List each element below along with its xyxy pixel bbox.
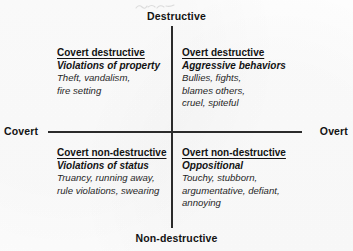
quadrant-covert-destructive: Covert destructive Violations of propert… <box>57 47 160 97</box>
quadrant-item: blames others, <box>182 85 286 97</box>
quadrant-item: Touchy, stubborn, <box>182 172 286 184</box>
quadrant-heading: Overt non-destructive <box>182 147 286 159</box>
quadrant-heading: Overt destructive <box>182 47 286 59</box>
quadrant-item: Bullies, fights, <box>182 72 286 84</box>
quadrant-diagram: Destructive Non-destructive Covert Overt… <box>0 0 353 251</box>
quadrant-overt-destructive: Overt destructive Aggressive behaviors B… <box>182 47 286 109</box>
quadrant-item: Truancy, running away, <box>57 172 166 184</box>
quadrant-heading: Covert non-destructive <box>57 147 166 159</box>
quadrant-item: fire setting <box>57 85 160 97</box>
quadrant-item: rule violations, swearing <box>57 185 166 197</box>
axis-label-non-destructive: Non-destructive <box>0 232 353 244</box>
quadrant-item: annoying <box>182 197 286 209</box>
axis-label-overt: Overt <box>320 125 348 137</box>
quadrant-subheading: Violations of status <box>57 160 166 172</box>
quadrant-item: Theft, vandalism, <box>57 72 160 84</box>
quadrant-item: cruel, spiteful <box>182 97 286 109</box>
quadrant-overt-non-destructive: Overt non-destructive Oppositional Touch… <box>182 147 286 209</box>
axis-label-covert: Covert <box>4 125 38 137</box>
axis-label-destructive: Destructive <box>0 10 353 22</box>
quadrant-subheading: Violations of property <box>57 60 160 72</box>
quadrant-subheading: Oppositional <box>182 160 286 172</box>
quadrant-heading: Covert destructive <box>57 47 160 59</box>
quadrant-subheading: Aggressive behaviors <box>182 60 286 72</box>
quadrant-covert-non-destructive: Covert non-destructive Violations of sta… <box>57 147 166 197</box>
horizontal-axis-line <box>48 131 302 133</box>
quadrant-item: argumentative, defiant, <box>182 185 286 197</box>
vertical-axis-line <box>171 26 173 228</box>
